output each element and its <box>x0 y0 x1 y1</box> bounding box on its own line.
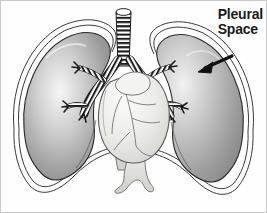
pleural-space-figure: Pleural Space <box>0 0 267 213</box>
heart <box>98 72 169 163</box>
pleural-space-label: Pleural Space <box>218 7 263 37</box>
trachea-top-opening <box>116 9 131 16</box>
